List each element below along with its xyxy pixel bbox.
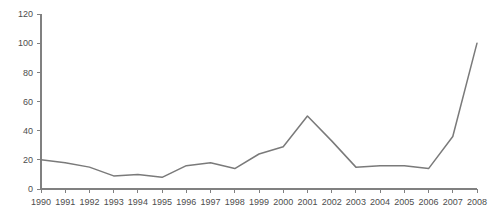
x-tick-label: 2006 (419, 197, 439, 207)
chart-canvas: 020406080100120 199019911992199319941995… (0, 0, 495, 217)
x-tick-label: 2004 (370, 197, 390, 207)
x-tick-label: 2005 (394, 197, 414, 207)
x-tick-label: 1998 (225, 197, 245, 207)
x-tick-label: 1993 (104, 197, 124, 207)
x-tick-label: 2000 (273, 197, 293, 207)
x-tick-label: 1996 (176, 197, 196, 207)
x-tick-label: 1994 (128, 197, 148, 207)
y-tick-label: 40 (23, 126, 33, 136)
y-tick-label: 0 (28, 184, 33, 194)
y-tick-label: 80 (23, 68, 33, 78)
x-tick-label: 1999 (249, 197, 269, 207)
x-tick-label: 1997 (201, 197, 221, 207)
x-tick-label: 1995 (152, 197, 172, 207)
x-tick-label: 2003 (346, 197, 366, 207)
data-series-group (41, 43, 477, 177)
line-chart: 020406080100120 199019911992199319941995… (0, 0, 495, 217)
x-tick-label: 2001 (297, 197, 317, 207)
x-tick-label: 2008 (467, 197, 487, 207)
x-tick-label: 1992 (79, 197, 99, 207)
y-tick-label: 120 (18, 9, 33, 19)
y-axis: 020406080100120 (18, 9, 41, 194)
y-tick-label: 20 (23, 155, 33, 165)
x-tick-label: 1990 (31, 197, 51, 207)
y-tick-label: 100 (18, 38, 33, 48)
x-tick-label: 2007 (443, 197, 463, 207)
x-tick-label: 2002 (322, 197, 342, 207)
data-line (41, 43, 477, 177)
y-tick-label: 60 (23, 97, 33, 107)
x-tick-label: 1991 (55, 197, 75, 207)
x-axis: 1990199119921993199419951996199719981999… (31, 189, 487, 207)
